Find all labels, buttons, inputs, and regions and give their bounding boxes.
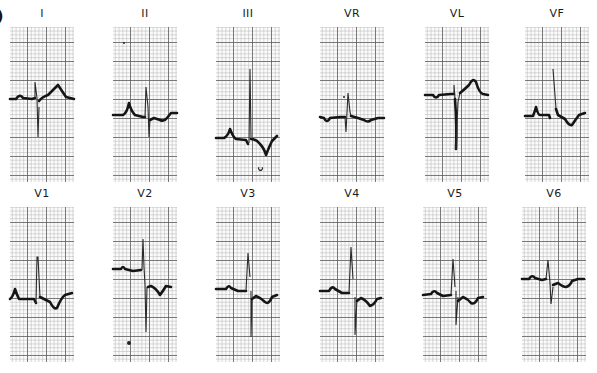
ecg-trace [10, 27, 74, 182]
ecg-strip [525, 27, 589, 182]
ecg-trace [216, 207, 280, 362]
ecg-strip [10, 207, 74, 362]
ecg-trace [320, 207, 384, 362]
ecg-trace [216, 27, 280, 182]
lead-label: VR [320, 7, 384, 20]
ecg-strip [10, 27, 74, 182]
ecg-trace [10, 207, 74, 362]
lead-label: VL [425, 7, 489, 20]
ecg-strip [423, 207, 487, 362]
ecg-strip [113, 27, 177, 182]
ecg-trace [522, 207, 586, 362]
lead-label: III [216, 7, 280, 20]
figure-panel-letter: ) [0, 8, 3, 24]
ecg-strip [113, 207, 177, 362]
lead-label: V5 [423, 187, 487, 200]
ecg-trace [320, 27, 384, 182]
lead-label: V6 [522, 187, 586, 200]
ecg-strip [522, 207, 586, 362]
lead-label: V3 [216, 187, 280, 200]
ecg-strip [320, 207, 384, 362]
lead-label: V4 [320, 187, 384, 200]
lead-label: II [113, 7, 177, 20]
lead-label: V1 [10, 187, 74, 200]
ecg-trace [113, 207, 177, 362]
ecg-strip [216, 27, 280, 182]
lead-label: VF [525, 7, 589, 20]
ecg-strip [425, 27, 489, 182]
ecg-strip [216, 207, 280, 362]
ecg-trace [423, 207, 487, 362]
lead-label: V2 [113, 187, 177, 200]
ecg-trace [525, 27, 589, 182]
lead-label: I [10, 7, 74, 20]
ecg-strip [320, 27, 384, 182]
ecg-trace [113, 27, 177, 182]
ecg-trace [425, 27, 489, 182]
